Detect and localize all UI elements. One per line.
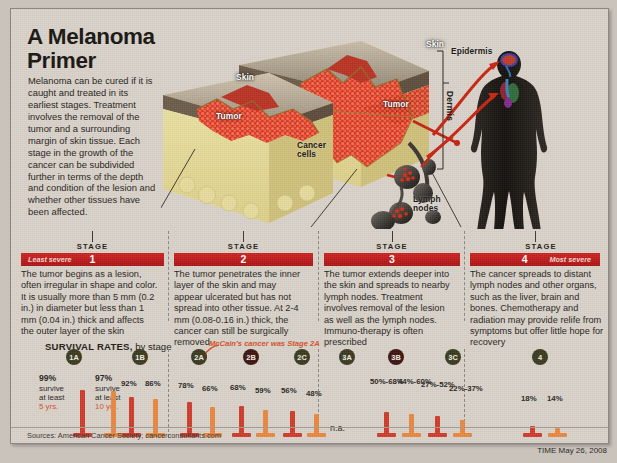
badge-4[interactable]: 4 (532, 349, 548, 365)
stage-connector-line (535, 231, 536, 242)
pct-2A-5yr: 78% (178, 382, 194, 391)
infographic-page: A Melanoma Primer Melanoma can be cured … (0, 0, 617, 463)
badge-2B[interactable]: 2B (243, 349, 259, 365)
badge-2C[interactable]: 2C (294, 349, 310, 365)
badge-label: 2C (297, 353, 306, 362)
label-cancer-cells: Cancer cells (297, 141, 339, 160)
label-dermis: Dermis (445, 91, 455, 121)
badge-2A[interactable]: 2A (191, 349, 207, 365)
survival-text-1A-5yr: 99%surviveat least5 yrs. (39, 374, 64, 411)
pct-2B-10yr: 59% (255, 387, 271, 396)
stage-number-1: 1 (90, 253, 96, 266)
stage-number-2: 2 (241, 253, 247, 266)
pct-1B-5yr: 92% (121, 380, 137, 389)
stage-bar-4: 4 Most severe (470, 253, 600, 266)
stage-columns: STAGE Least severe 1 The tumor begins as… (17, 231, 604, 321)
sources-text: Sources: American Cancer Society; cancer… (27, 431, 221, 440)
badge-label: 3A (342, 353, 351, 362)
pct-2A-10yr: 66% (202, 385, 218, 394)
pct-2C-5yr: 56% (281, 387, 297, 396)
label-skin-front: Skin (236, 72, 254, 82)
badge-label: 3B (391, 353, 400, 362)
stage-word-4: STAGE (470, 242, 609, 251)
badge-label: 2A (194, 353, 203, 362)
survival-text-1A-10yr: 97%surviveat least10 yrs. (95, 374, 120, 411)
badge-3B[interactable]: 3B (388, 349, 404, 365)
label-tumor-front: Tumor (216, 111, 242, 121)
label-tumor-back: Tumor (383, 99, 409, 109)
infographic-sheet: A Melanoma Primer Melanoma can be cured … (10, 8, 609, 444)
badge-label: 1B (135, 353, 144, 362)
pct-1A-10yr: 97% (95, 373, 112, 383)
pct-4-10yr: 14% (547, 395, 563, 404)
badge-label: 3C (448, 353, 457, 362)
pct-3C-10yr: 22%-37% (449, 385, 483, 394)
badge-label: 4 (538, 353, 542, 362)
stage-number-3: 3 (389, 253, 395, 266)
pct-4-5yr: 18% (521, 395, 537, 404)
stage-number-4: 4 (522, 253, 528, 266)
badge-label: 1A (69, 353, 78, 362)
stage-description-4: The cancer spreads to distant lymph node… (470, 269, 606, 349)
badge-3C[interactable]: 3C (445, 349, 461, 365)
stage-word-2: STAGE (174, 242, 313, 251)
mccain-annotation: McCain's cancer was Stage 2A (209, 339, 320, 348)
label-epidermis: Epidermis (451, 46, 492, 56)
badge-1B[interactable]: 1B (132, 349, 148, 365)
stage-connector-line (392, 231, 393, 242)
pct-2B-5yr: 68% (230, 384, 246, 393)
stage-bar-3: 3 (324, 253, 460, 266)
badge-3A[interactable]: 3A (339, 349, 355, 365)
label-lymph-nodes: Lymph nodes (413, 195, 447, 214)
label-skin-back: Skin (426, 39, 444, 49)
stage-word-3: STAGE (324, 242, 460, 251)
badge-label: 2B (246, 353, 255, 362)
pct-1A-5yr: 99% (39, 373, 56, 383)
time-credit: TIME May 26, 2008 (0, 446, 607, 455)
pct-2C-10yr: 48% (306, 390, 322, 399)
stage-connector-line (92, 231, 93, 242)
stage-connector-line (243, 231, 244, 242)
intro-paragraph: Melanoma can be cured if it is caught an… (28, 75, 160, 218)
severity-least: Least severe (28, 253, 72, 266)
badge-1A[interactable]: 1A (66, 349, 82, 365)
stage-description-2: The tumor penetrates the inner layer of … (174, 269, 307, 349)
anatomy-illustration: Skin Skin Tumor Tumor Cancer cells Epide… (161, 17, 608, 229)
stage-bar-2: 2 (174, 253, 313, 266)
severity-most: Most severe (549, 253, 591, 266)
survival-chart: 1A 99%surviveat least5 yrs. 97%surviveat… (17, 349, 604, 437)
stage-description-1: The tumor begins as a lesion, often irre… (21, 269, 158, 337)
stage-bar-1: Least severe 1 (21, 253, 164, 266)
illustration-svg (161, 17, 608, 229)
stage-description-3: The tumor extends deeper into the skin a… (324, 269, 454, 349)
stage-word-1: STAGE (21, 242, 164, 251)
pct-1B-10yr: 86% (145, 380, 161, 389)
